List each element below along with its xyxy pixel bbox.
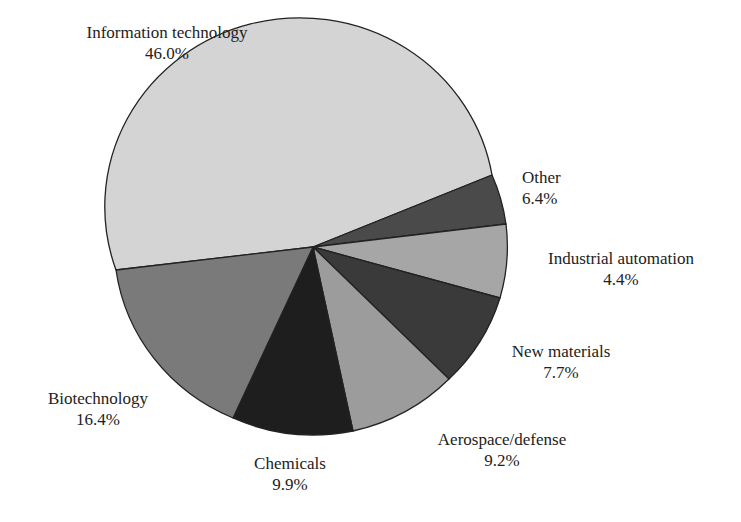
label-value: 6.4% xyxy=(522,188,561,209)
label-name: Aerospace/defense xyxy=(418,429,586,450)
label-aerospace-defense: Aerospace/defense 9.2% xyxy=(418,429,586,471)
label-value: 4.4% xyxy=(525,269,717,290)
label-value: 16.4% xyxy=(30,409,166,430)
label-new-materials: New materials 7.7% xyxy=(494,341,628,383)
label-other: Other 6.4% xyxy=(522,167,561,209)
label-chemicals: Chemicals 9.9% xyxy=(242,453,338,495)
label-name: Information technology xyxy=(62,22,272,43)
label-biotechnology: Biotechnology 16.4% xyxy=(30,388,166,430)
label-value: 9.2% xyxy=(418,450,586,471)
label-name: Industrial automation xyxy=(525,248,717,269)
label-name: Other xyxy=(522,167,561,188)
label-name: New materials xyxy=(494,341,628,362)
label-value: 9.9% xyxy=(242,474,338,495)
label-value: 46.0% xyxy=(62,43,272,64)
label-name: Biotechnology xyxy=(30,388,166,409)
label-information-technology: Information technology 46.0% xyxy=(62,22,272,64)
label-industrial-automation: Industrial automation 4.4% xyxy=(525,248,717,290)
label-name: Chemicals xyxy=(242,453,338,474)
label-value: 7.7% xyxy=(494,362,628,383)
